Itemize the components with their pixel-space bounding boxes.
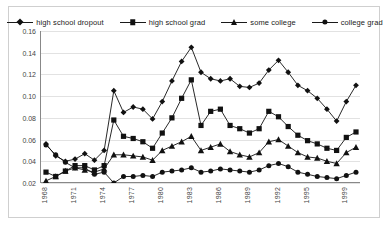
circle-data-point [266, 163, 271, 168]
circle-data-point [140, 173, 145, 178]
legend-item-high-school-dropout[interactable]: high school dropout [7, 18, 103, 27]
circle-data-point [82, 165, 87, 170]
circle-data-point [44, 143, 49, 148]
square-data-point [315, 141, 320, 146]
square-data-point [257, 126, 262, 131]
x-axis-tick-label: 1971 [70, 187, 77, 203]
triangle-data-point [285, 143, 291, 149]
circle-data-point [169, 169, 174, 174]
square-data-point [237, 126, 242, 131]
circle-data-point [102, 170, 107, 175]
circle-data-point [63, 160, 68, 165]
y-axis-labels: 0.020.040.060.080.100.120.140.16 [9, 31, 39, 217]
x-axis-tick-label: 1974 [99, 187, 106, 203]
circle-data-point [218, 166, 223, 171]
diamond-data-point [82, 151, 88, 157]
y-axis-tick-label: 0.02 [22, 180, 36, 187]
y-axis-tick-label: 0.14 [22, 49, 36, 56]
x-axis-tick-label: 1983 [186, 187, 193, 203]
chart-frame: high school dropout high school grad som… [8, 6, 380, 218]
circle-data-point [228, 167, 233, 172]
diamond-marker-icon [17, 18, 24, 25]
x-axis-tick-label: 1980 [157, 187, 164, 203]
square-data-point [218, 107, 223, 112]
circle-data-point [237, 169, 242, 174]
square-data-point [208, 109, 213, 114]
diamond-data-point [111, 88, 117, 94]
circle-data-point [53, 152, 58, 157]
square-data-point [305, 138, 310, 143]
triangle-data-point [237, 152, 243, 158]
y-axis-tick-label: 0.04 [22, 158, 36, 165]
diamond-data-point [179, 59, 185, 65]
x-axis-tick-label: 1999 [341, 187, 348, 203]
square-data-point [334, 148, 339, 153]
square-data-point [43, 170, 48, 175]
circle-data-point [324, 175, 329, 180]
square-marker-icon [130, 19, 136, 25]
circle-data-point [247, 170, 252, 175]
series-line [46, 80, 356, 177]
square-data-point [344, 135, 349, 140]
triangle-data-point [275, 136, 281, 142]
y-axis-tick-label: 0.10 [22, 93, 36, 100]
square-data-point [266, 109, 271, 114]
legend-item-college-grad[interactable]: college grad [312, 18, 383, 27]
square-data-point [179, 96, 184, 101]
legend-label: high school grad [149, 18, 206, 27]
square-data-point [353, 129, 358, 134]
square-data-point [227, 123, 232, 128]
triangle-data-point [217, 141, 223, 147]
square-data-point [140, 139, 145, 144]
circle-data-point [276, 161, 281, 166]
x-axis-tick-label: 1992 [274, 187, 281, 203]
square-data-point [276, 114, 281, 119]
diamond-data-point [217, 78, 223, 84]
diamond-data-point [188, 44, 194, 50]
triangle-data-point [324, 158, 330, 164]
plot-area [40, 31, 360, 183]
circle-data-point [121, 174, 126, 179]
square-data-point [286, 124, 291, 129]
legend-label: high school dropout [36, 18, 103, 27]
diamond-data-point [353, 82, 359, 88]
triangle-marker-icon [231, 19, 237, 25]
series-canvas [41, 31, 361, 183]
x-axis-tick-label: 1986 [215, 187, 222, 203]
series-high-school-dropout [43, 44, 359, 164]
legend-item-high-school-grad[interactable]: high school grad [120, 18, 206, 27]
x-axis-tick-label: 1977 [128, 187, 135, 203]
triangle-data-point [178, 139, 184, 145]
y-axis-tick-label: 0.08 [22, 114, 36, 121]
square-data-point [121, 134, 126, 139]
circle-data-point [286, 164, 291, 169]
diamond-data-point [130, 104, 136, 110]
triangle-data-point [207, 144, 213, 150]
legend-item-some-college[interactable]: some college [221, 18, 295, 27]
triangle-data-point [304, 154, 310, 160]
circle-data-point [189, 165, 194, 170]
x-axis-labels: 1968197119741977198019831986198919921995… [40, 185, 360, 217]
x-axis-tick-label: 1995 [303, 187, 310, 203]
legend-line [7, 22, 33, 23]
triangle-data-point [295, 149, 301, 155]
circle-data-point [131, 174, 136, 179]
square-data-point [324, 146, 329, 151]
square-data-point [295, 133, 300, 138]
diamond-data-point [343, 99, 349, 105]
diamond-data-point [247, 85, 253, 91]
circle-data-point [334, 176, 339, 181]
circle-data-point [199, 170, 204, 175]
circle-data-point [305, 172, 310, 177]
square-data-point [169, 115, 174, 120]
y-axis-tick-label: 0.06 [22, 136, 36, 143]
circle-marker-icon [322, 19, 327, 24]
circle-data-point [354, 170, 359, 175]
legend-line [312, 22, 338, 23]
gridline [41, 183, 360, 184]
y-axis-tick-label: 0.16 [22, 28, 36, 35]
x-axis-tick-label: 1968 [41, 187, 48, 203]
diamond-data-point [208, 76, 214, 82]
circle-data-point [179, 167, 184, 172]
square-data-point [160, 130, 165, 135]
